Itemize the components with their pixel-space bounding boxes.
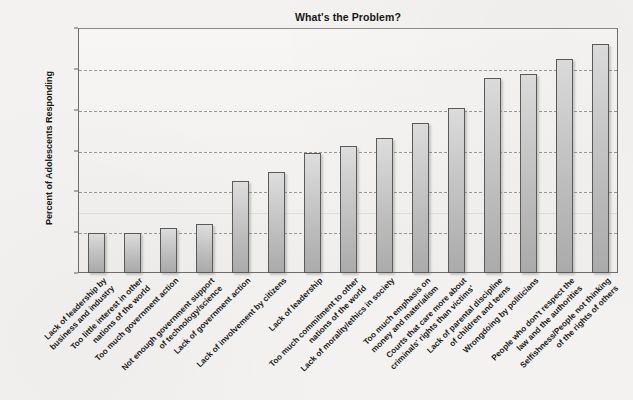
bar-slot — [546, 28, 582, 273]
y-axis-title: Percent of Adolescents Responding — [44, 23, 54, 273]
bar[interactable] — [88, 233, 105, 273]
bar-slot — [366, 28, 402, 273]
chart-title: What's the Problem? — [78, 11, 618, 23]
bar-slot — [582, 28, 618, 273]
bar[interactable] — [520, 74, 537, 273]
bar-slot — [402, 28, 438, 273]
x-axis-label-line: nations of the world — [275, 283, 369, 377]
bar[interactable] — [232, 181, 249, 273]
bar[interactable] — [592, 44, 609, 273]
x-axis-labels: Lack of leadership bybusiness and indust… — [78, 276, 618, 400]
bar[interactable] — [556, 59, 573, 273]
bar-slot — [150, 28, 186, 273]
bar-slot — [78, 28, 114, 273]
bar-slot — [438, 28, 474, 273]
bar-slot — [222, 28, 258, 273]
bar[interactable] — [340, 146, 357, 273]
bar-slot — [294, 28, 330, 273]
bar-slot — [474, 28, 510, 273]
bar-slot — [330, 28, 366, 273]
bar[interactable] — [376, 138, 393, 273]
bar-slot — [510, 28, 546, 273]
bar-slot — [258, 28, 294, 273]
bar[interactable] — [412, 123, 429, 273]
bar-slot — [186, 28, 222, 273]
bar[interactable] — [304, 153, 321, 273]
bar[interactable] — [196, 224, 213, 273]
bar-slot — [114, 28, 150, 273]
bar[interactable] — [160, 228, 177, 273]
bar[interactable] — [484, 78, 501, 273]
bar-chart: What's the Problem? Percent of Adolescen… — [0, 0, 633, 400]
bar[interactable] — [268, 172, 285, 273]
bar-series — [78, 28, 618, 273]
bar[interactable] — [448, 108, 465, 273]
bar[interactable] — [124, 233, 141, 273]
